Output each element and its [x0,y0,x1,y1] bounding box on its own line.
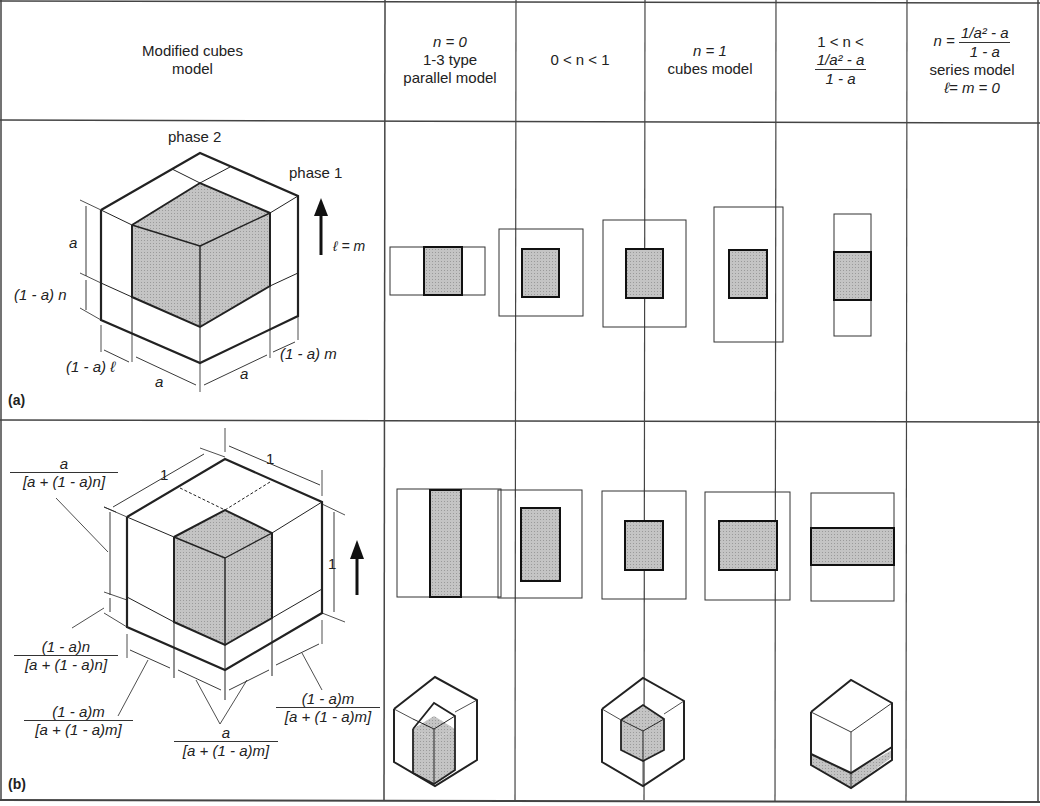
fraction: 1/a² - a1 - a [959,24,1011,61]
fraction: 1/a² - a1 - a [815,51,867,88]
plan-a-n-gt1 [714,207,783,342]
label-l-equals-m: ℓ = m [333,238,365,254]
label-frac-m-right: (1 - a)m[a + (1 - a)m] [276,690,380,725]
label-dim-l: (1 - a) ℓ [66,358,115,375]
label-dim-1-top-left: 1 [160,466,168,483]
label-dim-a-right: a [240,365,248,382]
plan-a-n0 [390,247,485,295]
label-frac-a-m: a[a + (1 - a)m] [174,724,278,759]
plan-a-series [834,214,871,336]
plan-b-n-lt1 [498,490,582,598]
subfigure-label-a: (a) [8,392,25,408]
mini-cube-n0 [394,677,477,786]
plan-b-n0 [397,489,501,597]
mini-cube-n1 [602,678,684,786]
label-dim-a: a [69,234,77,251]
plan-b-n-gt1 [705,492,790,600]
header-modified-cubes: Modified cubesmodel [0,0,385,120]
arrow-up-icon [314,198,328,255]
mini-cube-series [811,680,892,788]
label-dim-a-left: a [155,373,163,390]
arrow-up-icon [350,540,364,595]
header-parallel-model: n = 01-3 typeparallel model [385,0,515,120]
header-n-gt-1: 1 < n < 1/a² - a1 - a [775,0,906,120]
label-dim-n: (1 - a) n [14,286,67,303]
label-dim-1-right: 1 [328,555,336,572]
label-frac-m-left: (1 - a)m[a + (1 - a)m] [24,703,133,738]
subfigure-label-b: (b) [8,776,26,792]
plan-a-n-lt1 [499,229,583,316]
label-frac-n: (1 - a)n[a + (1 - a)n] [14,638,118,673]
cube-a [80,153,298,392]
header-series-model: n = 1/a² - a1 - a series model ℓ= m = 0 [906,0,1038,120]
label-frac-a-n: a[a + (1 - a)n] [10,455,118,490]
label-phase-1: phase 1 [289,164,342,181]
table-grid [0,0,1040,806]
plan-b-series [811,493,894,601]
header-n-between-0-1: 0 < n < 1 [515,0,645,120]
label-dim-m: (1 - a) m [280,345,337,362]
header-cubes-model: n = 1cubes model [645,0,775,120]
label-dim-1-top-right: 1 [266,450,274,467]
label-phase-2: phase 2 [168,128,221,145]
